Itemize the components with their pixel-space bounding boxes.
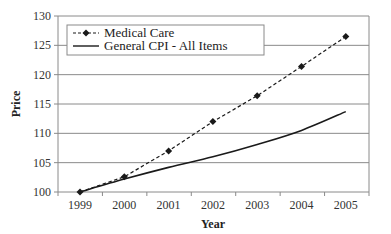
legend: Medical Care General CPI - All Items bbox=[67, 25, 264, 55]
y-tick-label: 115 bbox=[33, 97, 51, 111]
diamond-marker-icon bbox=[254, 92, 261, 99]
x-tick-label: 2002 bbox=[201, 198, 225, 212]
y-axis-title: Price bbox=[9, 90, 23, 117]
diamond-marker-icon bbox=[165, 147, 172, 154]
diamond-marker-icon bbox=[298, 63, 305, 70]
y-tick-label: 110 bbox=[33, 126, 51, 140]
y-tick-label: 120 bbox=[33, 68, 51, 82]
y-tick-label: 130 bbox=[33, 9, 51, 23]
diamond-marker-icon bbox=[342, 33, 349, 40]
diamond-marker-icon bbox=[209, 118, 216, 125]
x-tick-label: 2004 bbox=[290, 198, 314, 212]
series-medical-care-line bbox=[80, 37, 346, 192]
x-tick-label: 2005 bbox=[334, 198, 358, 212]
legend-label: General CPI - All Items bbox=[104, 38, 227, 53]
y-tick-label: 100 bbox=[33, 185, 51, 199]
x-axis-ticks: 1999200020012002200320042005 bbox=[58, 192, 369, 212]
y-tick-label: 105 bbox=[33, 156, 51, 170]
x-tick-label: 1999 bbox=[68, 198, 92, 212]
x-axis-title: Year bbox=[201, 217, 226, 231]
line-chart: 100105110115120125130 199920002001200220… bbox=[0, 0, 391, 234]
y-tick-label: 125 bbox=[33, 38, 51, 52]
x-tick-label: 2003 bbox=[245, 198, 269, 212]
diamond-marker-icon bbox=[77, 189, 84, 196]
y-axis-ticks: 100105110115120125130 bbox=[33, 9, 58, 199]
x-tick-label: 2001 bbox=[157, 198, 181, 212]
data-series bbox=[77, 33, 350, 195]
x-tick-label: 2000 bbox=[112, 198, 136, 212]
